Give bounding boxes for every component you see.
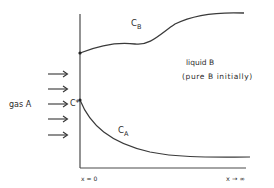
gas-a-label: gas A bbox=[9, 100, 32, 109]
flux-arrow-icon bbox=[48, 101, 68, 107]
x-zero-label: x = 0 bbox=[81, 175, 97, 182]
cb-start-dot bbox=[78, 51, 81, 54]
cb-concentration-curve bbox=[80, 13, 244, 53]
diagram-canvas: gas A C* CB CA liquid B (pure B initiall… bbox=[0, 0, 274, 188]
x-infinity-label: x → ∞ bbox=[226, 175, 245, 183]
c-star-label: C* bbox=[70, 99, 80, 108]
cb-label: CB bbox=[131, 18, 141, 31]
gas-flux-arrows bbox=[48, 71, 68, 138]
liquid-b-label: liquid B bbox=[186, 58, 214, 67]
flux-arrow-icon bbox=[48, 132, 68, 138]
ca-concentration-curve bbox=[80, 100, 250, 157]
pure-b-initially-label: (pure B initially) bbox=[182, 72, 253, 81]
flux-arrow-icon bbox=[48, 116, 68, 122]
flux-arrow-icon bbox=[48, 86, 68, 92]
flux-arrow-icon bbox=[48, 71, 68, 77]
diffusion-diagram: gas A C* CB CA liquid B (pure B initiall… bbox=[0, 0, 274, 188]
ca-label: CA bbox=[118, 125, 129, 138]
